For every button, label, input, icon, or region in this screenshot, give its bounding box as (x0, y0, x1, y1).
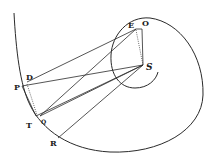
label-t: T (26, 120, 32, 130)
segment-q-e (40, 29, 136, 116)
label-r: R (50, 138, 57, 148)
label-q: Q (41, 118, 46, 126)
segment-q-s (40, 65, 143, 116)
label-d: D (26, 72, 33, 82)
label-p: P (14, 82, 20, 92)
label-e: E (128, 20, 134, 30)
segment-r-s (58, 65, 143, 138)
spiral-orbit-diagram: E O S D P T Q R (0, 0, 220, 165)
label-s: S (146, 62, 153, 72)
segment-o-s (142, 29, 143, 65)
label-o: O (142, 18, 149, 28)
segment-d-e (27, 29, 136, 82)
